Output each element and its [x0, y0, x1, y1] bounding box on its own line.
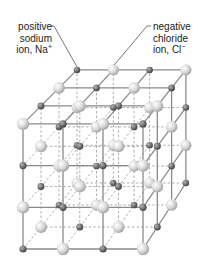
- sodium-ion: [38, 183, 45, 190]
- chloride-ion: [137, 159, 149, 171]
- hidden-lattice-lines: [23, 70, 186, 249]
- sodium-leader-line: [50, 26, 77, 67]
- chloride-label-line2: chloride: [153, 33, 206, 45]
- sodium-ion-label: positive sodium ion, Na+: [0, 21, 52, 56]
- sodium-label-line1: positive: [0, 21, 52, 33]
- sodium-ion: [115, 183, 122, 190]
- sodium-ion: [59, 120, 66, 127]
- sodium-ion: [99, 245, 106, 252]
- chloride-ion: [74, 100, 86, 112]
- sodium-ion: [76, 143, 83, 150]
- chloride-ion: [35, 221, 47, 233]
- chloride-ion: [17, 118, 29, 130]
- chloride-label-line1: negative: [153, 21, 206, 33]
- chloride-leader-line: [114, 26, 151, 65]
- chloride-ion: [113, 140, 125, 152]
- chloride-label-line3: ion, Cl−: [153, 44, 206, 56]
- chloride-ion: [74, 181, 86, 193]
- sodium-ion: [146, 67, 152, 73]
- sodium-label-line2: sodium: [0, 33, 52, 45]
- chloride-formula: ion, Cl: [153, 44, 181, 55]
- sodium-ion: [93, 163, 100, 170]
- chloride-ion: [151, 181, 163, 193]
- sodium-ion: [76, 224, 83, 231]
- sodium-ion: [74, 67, 80, 73]
- chloride-ion: [97, 201, 109, 213]
- visible-lattice-lines: [23, 70, 186, 249]
- sodium-ion: [139, 204, 146, 211]
- chloride-ion: [166, 121, 178, 133]
- lattice-ions: [17, 64, 192, 255]
- sodium-ion: [115, 102, 122, 109]
- sodium-ion: [146, 142, 152, 148]
- sodium-ion: [59, 204, 66, 211]
- chloride-ion: [57, 243, 69, 255]
- chloride-ion: [128, 82, 140, 94]
- chloride-ion: [17, 201, 29, 213]
- sodium-label-line3: ion, Na+: [0, 44, 52, 56]
- sodium-ion: [38, 102, 45, 109]
- label-leader-lines: [50, 26, 151, 67]
- chloride-ion: [180, 64, 191, 75]
- sodium-ion: [131, 124, 138, 131]
- chloride-ion: [166, 199, 178, 211]
- chloride-ion-label: negative chloride ion, Cl−: [153, 21, 206, 56]
- chloride-ion: [151, 100, 163, 112]
- sodium-charge: +: [48, 43, 52, 50]
- sodium-ion: [99, 162, 106, 169]
- chloride-ion: [108, 64, 119, 75]
- sodium-ion: [19, 245, 26, 252]
- sodium-ion: [154, 224, 161, 231]
- sodium-formula: ion, Na: [16, 44, 48, 55]
- chloride-ion: [35, 140, 47, 152]
- chloride-ion: [137, 243, 149, 255]
- chloride-ion: [180, 140, 191, 151]
- chloride-ion: [113, 221, 125, 233]
- chloride-ion: [57, 159, 69, 171]
- sodium-ion: [131, 202, 138, 209]
- sodium-ion: [183, 180, 189, 186]
- sodium-ion: [168, 163, 175, 170]
- chloride-charge: −: [181, 43, 185, 50]
- sodium-ion: [19, 162, 26, 169]
- chloride-ion: [53, 82, 65, 94]
- sodium-ion: [139, 120, 146, 127]
- sodium-ion: [168, 85, 175, 92]
- sodium-ion: [183, 104, 189, 110]
- sodium-ion: [93, 85, 100, 92]
- chloride-ion: [97, 118, 109, 130]
- sodium-ion: [154, 143, 161, 150]
